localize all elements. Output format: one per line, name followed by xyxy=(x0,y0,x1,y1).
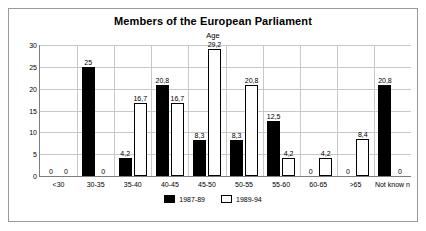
bar-value-label: 29,2 xyxy=(208,41,222,48)
bar-group: 8,320,850-55 xyxy=(226,45,263,176)
bar-slot: 16,7 xyxy=(134,45,147,176)
bar-slot: 4,2 xyxy=(282,45,295,176)
bar-value-label: 25 xyxy=(84,59,92,66)
y-axis-tick-label: 20 xyxy=(29,85,37,92)
legend-label: 1987-89 xyxy=(179,196,205,203)
x-axis-category-label: 30-35 xyxy=(77,181,114,188)
y-axis-tick-label: 5 xyxy=(33,151,37,158)
x-axis-category-label: Not know n xyxy=(374,181,411,188)
y-axis-tick-label: 30 xyxy=(29,42,37,49)
bar-slot: 0 xyxy=(97,45,110,176)
bar-value-label: 4,2 xyxy=(321,150,331,157)
bar-slot: 8,4 xyxy=(356,45,369,176)
bar-group-bars: 20,816,7 xyxy=(151,45,188,176)
bar-group-bars: 00 xyxy=(40,45,77,176)
bar[interactable] xyxy=(230,140,243,176)
bar-slot: 0 xyxy=(304,45,317,176)
bar-value-label: 0 xyxy=(64,168,68,175)
bar[interactable] xyxy=(319,158,332,176)
x-axis-category-label: 60-65 xyxy=(300,181,337,188)
bar-group: 00<30 xyxy=(40,45,77,176)
bar[interactable] xyxy=(119,158,132,176)
bar-group: 4,216,735-40 xyxy=(114,45,151,176)
bar-group-bars: 12,54,2 xyxy=(263,45,300,176)
legend-label: 1989-94 xyxy=(236,196,262,203)
bar[interactable] xyxy=(245,85,258,176)
chart-title: Members of the European Parliament xyxy=(9,15,417,27)
x-axis-category-label: 45-50 xyxy=(188,181,225,188)
bar-group-bars: 8,329,2 xyxy=(188,45,225,176)
bar-slot: 20,8 xyxy=(245,45,258,176)
y-axis-tick-label: 0 xyxy=(33,173,37,180)
bar[interactable] xyxy=(356,139,369,176)
bar[interactable] xyxy=(171,103,184,176)
bar-value-label: 4,2 xyxy=(120,150,130,157)
bar-value-label: 8,3 xyxy=(195,132,205,139)
bar-value-label: 4,2 xyxy=(284,150,294,157)
bar[interactable] xyxy=(134,103,147,176)
bar-slot: 20,8 xyxy=(378,45,391,176)
bar[interactable] xyxy=(82,67,95,176)
chart-legend: 1987-891989-94 xyxy=(9,195,417,203)
bar-value-label: 0 xyxy=(398,168,402,175)
legend-swatch xyxy=(164,195,175,203)
bar-group-bars: 04,2 xyxy=(300,45,337,176)
bar-slot: 0 xyxy=(45,45,58,176)
bar-value-label: 20,8 xyxy=(378,77,392,84)
bar-group-bars: 4,216,7 xyxy=(114,45,151,176)
bar-slot: 0 xyxy=(341,45,354,176)
bar-group: 8,329,245-50 xyxy=(188,45,225,176)
legend-item[interactable]: 1987-89 xyxy=(164,195,205,203)
bar-value-label: 16,7 xyxy=(133,95,147,102)
bar[interactable] xyxy=(282,158,295,176)
bar-value-label: 20,8 xyxy=(156,77,170,84)
bar-group: 25030-35 xyxy=(77,45,114,176)
bar-value-label: 20,8 xyxy=(245,77,259,84)
chart-subtitle: Age xyxy=(9,31,417,40)
bar-slot: 12,5 xyxy=(267,45,280,176)
bar-value-label: 12,5 xyxy=(267,113,281,120)
bar-group: 08,4>65 xyxy=(337,45,374,176)
bar-slot: 25 xyxy=(82,45,95,176)
bar-group: 20,80Not know n xyxy=(374,45,411,176)
bar[interactable] xyxy=(267,121,280,176)
x-axis-category-label: 55-60 xyxy=(263,181,300,188)
y-axis-tick-label: 15 xyxy=(29,107,37,114)
bar[interactable] xyxy=(378,85,391,176)
bar-group-bars: 8,320,8 xyxy=(226,45,263,176)
plot-area: 051015202530 00<3025030-354,216,735-4020… xyxy=(39,45,411,177)
bar[interactable] xyxy=(208,49,221,177)
bar-group-bars: 250 xyxy=(77,45,114,176)
y-axis-tick-label: 10 xyxy=(29,129,37,136)
bar-value-label: 8,3 xyxy=(232,132,242,139)
bar-group: 20,816,740-45 xyxy=(151,45,188,176)
bar-slot: 8,3 xyxy=(193,45,206,176)
bar-value-label: 16,7 xyxy=(171,95,185,102)
bar-slot: 8,3 xyxy=(230,45,243,176)
bar-group-bars: 20,80 xyxy=(374,45,411,176)
legend-item[interactable]: 1989-94 xyxy=(221,195,262,203)
bar-slot: 29,2 xyxy=(208,45,221,176)
bar-slot: 16,7 xyxy=(171,45,184,176)
bar-value-label: 8,4 xyxy=(358,131,368,138)
bar-slot: 0 xyxy=(60,45,73,176)
bar[interactable] xyxy=(193,140,206,176)
legend-swatch xyxy=(221,195,232,203)
bar-value-label: 0 xyxy=(49,168,53,175)
bar-group: 04,260-65 xyxy=(300,45,337,176)
chart-frame: Members of the European Parliament Age 0… xyxy=(8,8,418,222)
x-axis-category-label: 40-45 xyxy=(151,181,188,188)
x-axis-category-label: 35-40 xyxy=(114,181,151,188)
bar-slot: 4,2 xyxy=(319,45,332,176)
y-axis-tick-label: 25 xyxy=(29,63,37,70)
bar-value-label: 0 xyxy=(101,168,105,175)
x-axis-category-label: <30 xyxy=(40,181,77,188)
bar-group-bars: 08,4 xyxy=(337,45,374,176)
bar-slot: 20,8 xyxy=(156,45,169,176)
x-axis-category-label: 50-55 xyxy=(226,181,263,188)
bar[interactable] xyxy=(156,85,169,176)
bar-slot: 0 xyxy=(393,45,406,176)
bar-slot: 4,2 xyxy=(119,45,132,176)
bar-value-label: 0 xyxy=(346,168,350,175)
bar-group: 12,54,255-60 xyxy=(263,45,300,176)
